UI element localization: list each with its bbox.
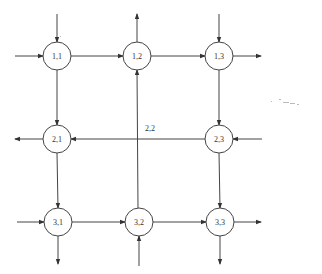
grid-flow-diagram: 1,1 1,2 1,3 2,1 2,3 3,1 3,2 3,3 xyxy=(0,0,322,274)
edge-2-1-to-3-1 xyxy=(57,153,58,208)
crossing-label-2-2: 2,2 xyxy=(145,124,155,133)
node-label: 3,2 xyxy=(134,218,144,227)
node-3-2: 3,2 xyxy=(125,208,153,236)
diagram-canvas: 1,1 1,2 1,3 2,1 2,3 3,1 3,2 3,3 xyxy=(0,0,322,274)
node-2-3: 2,3 xyxy=(205,125,233,153)
node-1-3: 1,3 xyxy=(205,42,233,70)
node-1-1: 1,1 xyxy=(43,42,71,70)
node-3-3: 3,3 xyxy=(206,208,234,236)
scan-noise xyxy=(60,36,299,105)
node-3-1: 3,1 xyxy=(44,208,72,236)
node-label: 1,2 xyxy=(132,52,142,61)
node-label: 3,1 xyxy=(53,218,63,227)
node-label: 2,1 xyxy=(52,135,62,144)
node-label: 2,3 xyxy=(214,135,224,144)
node-2-1: 2,1 xyxy=(43,125,71,153)
node-1-2: 1,2 xyxy=(123,42,151,70)
node-label: 1,1 xyxy=(52,52,62,61)
edge-2-3-to-3-3 xyxy=(219,153,220,208)
node-label: 3,3 xyxy=(215,218,225,227)
edge-3-2-to-1-2 xyxy=(137,70,138,208)
node-label: 1,3 xyxy=(214,52,224,61)
